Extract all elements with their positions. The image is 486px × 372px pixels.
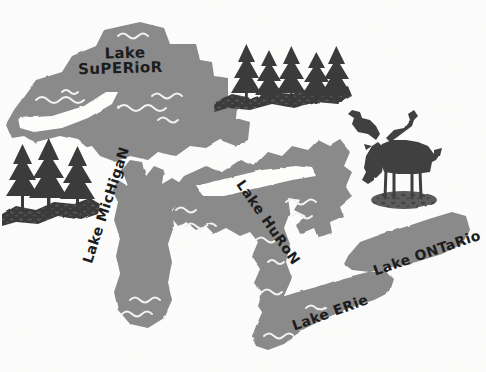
great-lakes-map: Lake SuPERioR Lake MicHigaN Lake HuRoN L… bbox=[0, 0, 486, 372]
map-illustration-svg bbox=[0, 0, 486, 372]
moose-ground-mound bbox=[371, 191, 437, 209]
